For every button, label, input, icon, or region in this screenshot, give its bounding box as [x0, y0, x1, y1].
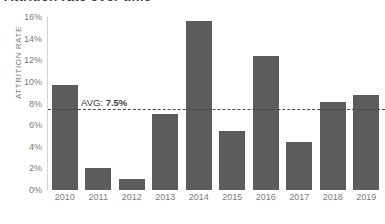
average-reference-line: AVG: 7.5%	[48, 109, 385, 110]
x-axis-tick-2014: 2014	[182, 192, 216, 202]
bar-slot	[149, 17, 183, 190]
y-axis-tick: 6%	[29, 120, 42, 130]
chart-title: Attrition rate over time	[4, 0, 151, 4]
x-axis-tick-2019: 2019	[350, 192, 384, 202]
bar-2010[interactable]	[52, 85, 78, 190]
x-axis-tick-2010: 2010	[48, 192, 82, 202]
bar-slot	[249, 17, 283, 190]
bar-slot	[48, 17, 82, 190]
bar-2015[interactable]	[219, 131, 245, 190]
y-axis-tick: 8%	[29, 99, 42, 109]
average-label-value: 7.5%	[106, 97, 128, 108]
y-axis-tick: 12%	[24, 55, 42, 65]
bar-2018[interactable]	[320, 102, 346, 190]
bar-slot	[350, 17, 384, 190]
bar-2012[interactable]	[119, 179, 145, 190]
x-axis-tick-2012: 2012	[115, 192, 149, 202]
x-axis-tick-2016: 2016	[249, 192, 283, 202]
y-axis-tick: 16%	[24, 12, 42, 22]
bar-slot	[182, 17, 216, 190]
y-axis-tick: 14%	[24, 34, 42, 44]
y-axis-tick: 0%	[29, 185, 42, 195]
bar-2017[interactable]	[286, 142, 312, 190]
y-axis-tick: 10%	[24, 77, 42, 87]
y-axis-tick: 2%	[29, 163, 42, 173]
bar-slot	[216, 17, 250, 190]
x-axis-tick-2013: 2013	[149, 192, 183, 202]
bar-2016[interactable]	[253, 56, 279, 190]
y-axis-title: ATTRITION RATE	[14, 3, 23, 123]
x-axis-tick-2018: 2018	[316, 192, 350, 202]
bar-2014[interactable]	[186, 21, 212, 190]
average-label: AVG: 7.5%	[81, 97, 127, 108]
x-axis-labels: 2010201120122013201420152016201720182019	[48, 192, 383, 202]
bar-2013[interactable]	[152, 114, 178, 190]
y-axis-tick: 4%	[29, 142, 42, 152]
x-axis-tick-2015: 2015	[216, 192, 250, 202]
plot-area: 0%2%4%6%8%10%12%14%16% AVG: 7.5%	[47, 17, 383, 190]
bar-slot	[283, 17, 317, 190]
chart-container: Attrition rate over time ATTRITION RATE …	[0, 0, 385, 224]
x-axis-tick-2011: 2011	[82, 192, 116, 202]
bar-slot	[316, 17, 350, 190]
bar-2011[interactable]	[85, 168, 111, 190]
average-label-prefix: AVG:	[81, 97, 106, 108]
x-axis-tick-2017: 2017	[283, 192, 317, 202]
